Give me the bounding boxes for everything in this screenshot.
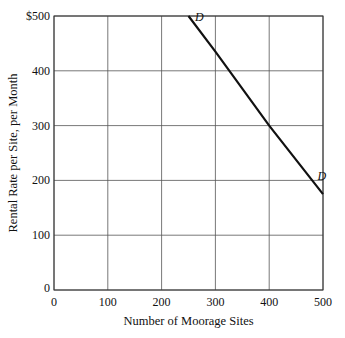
x-tick-label: 200 — [153, 295, 171, 309]
y-axis-label: Rental Rate per Site, per Month — [6, 73, 20, 233]
y-tick-label: 400 — [32, 64, 50, 78]
x-tick-label: 100 — [99, 295, 117, 309]
x-tick-label: 500 — [314, 295, 332, 309]
x-tick-label: 300 — [206, 295, 224, 309]
curve-label: D — [317, 169, 327, 183]
y-tick-label: 300 — [32, 119, 50, 133]
curve-labels: DD — [194, 10, 327, 183]
x-tick-label: 0 — [51, 295, 57, 309]
y-tick-label: 100 — [32, 228, 50, 242]
demand-curve — [189, 16, 324, 194]
y-tick-label: $500 — [26, 9, 50, 23]
x-axis-ticks: 0100200300400500 — [51, 295, 332, 309]
y-axis-ticks: 0100200300400$500 — [26, 9, 50, 295]
y-tick-label: 0 — [44, 281, 50, 295]
plot-frame — [54, 16, 323, 290]
x-tick-label: 400 — [260, 295, 278, 309]
x-axis-label: Number of Moorage Sites — [123, 314, 253, 328]
grid — [54, 16, 323, 290]
curve-label: D — [194, 10, 204, 24]
y-tick-label: 200 — [32, 173, 50, 187]
chart: 0100200300400$500 0100200300400500 DD Nu… — [0, 0, 345, 338]
